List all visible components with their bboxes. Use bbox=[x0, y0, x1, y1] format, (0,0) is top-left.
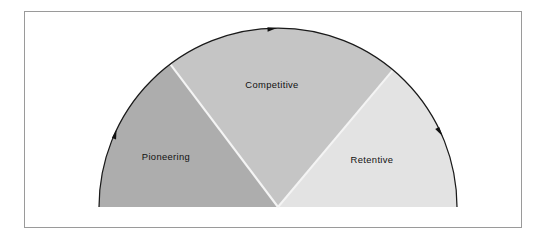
sector-label-pioneering: Pioneering bbox=[142, 151, 190, 162]
figure-root: Pioneering Competitive Retentive bbox=[0, 0, 546, 239]
arrow-left-ascending-icon bbox=[112, 129, 117, 139]
sector-label-competitive: Competitive bbox=[245, 79, 298, 90]
sector-label-retentive: Retentive bbox=[351, 154, 394, 165]
semicircle-cycle-diagram: Pioneering Competitive Retentive bbox=[0, 0, 546, 239]
